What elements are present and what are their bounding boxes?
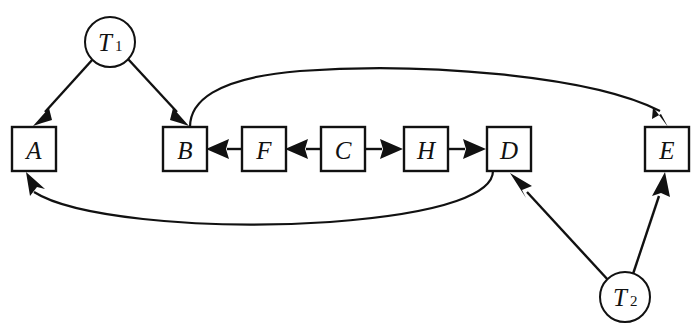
node-t2[interactable]: T 2 bbox=[600, 272, 650, 322]
edge-t2-to-d-line bbox=[527, 192, 609, 281]
node-t1[interactable]: T 1 bbox=[85, 17, 135, 67]
edge-b-to-e-curve bbox=[190, 68, 660, 127]
edge-h-to-d-arrowhead bbox=[463, 139, 486, 159]
edge-c-to-f bbox=[285, 139, 321, 159]
node-b-label: B bbox=[177, 137, 192, 164]
node-f[interactable]: F bbox=[242, 127, 286, 171]
node-a-label: A bbox=[24, 137, 42, 164]
node-e[interactable]: E bbox=[645, 127, 689, 171]
edge-f-to-b bbox=[206, 139, 242, 159]
node-d-label: D bbox=[499, 137, 518, 164]
node-a[interactable]: A bbox=[12, 127, 56, 171]
edge-b-to-e bbox=[190, 68, 668, 127]
edge-t2-to-e-line bbox=[633, 196, 659, 274]
node-t1-label: T bbox=[98, 29, 114, 56]
edge-t1-to-a-arrowhead bbox=[33, 108, 52, 126]
node-h[interactable]: H bbox=[404, 127, 448, 171]
edge-t1-to-b-line bbox=[128, 59, 177, 112]
edge-t1-to-a bbox=[33, 59, 93, 126]
node-h-label: H bbox=[416, 137, 437, 164]
edge-h-to-d bbox=[448, 139, 486, 159]
edge-t2-to-d bbox=[510, 173, 609, 281]
node-c[interactable]: C bbox=[321, 127, 365, 171]
edge-c-to-h-arrowhead bbox=[380, 139, 403, 159]
edge-c-to-h bbox=[365, 139, 403, 159]
node-f-label: F bbox=[255, 137, 272, 164]
node-b[interactable]: B bbox=[163, 127, 207, 171]
edge-d-to-a-curve bbox=[34, 171, 493, 225]
node-e-label: E bbox=[658, 137, 674, 164]
node-d[interactable]: D bbox=[487, 127, 531, 171]
node-t2-label: T bbox=[613, 284, 629, 311]
node-t1-subscript: 1 bbox=[115, 38, 123, 54]
edge-f-to-b-arrowhead bbox=[206, 139, 229, 159]
edge-t2-to-e-arrowhead bbox=[652, 172, 670, 197]
edge-t1-to-b-arrowhead bbox=[170, 108, 189, 126]
edge-d-to-a bbox=[26, 171, 493, 225]
graph-svg: A B F C H D E bbox=[0, 0, 699, 335]
edge-t2-to-e bbox=[633, 172, 670, 274]
edge-c-to-f-arrowhead bbox=[285, 139, 308, 159]
node-c-label: C bbox=[335, 137, 352, 164]
diagram-canvas: A B F C H D E bbox=[0, 0, 699, 335]
node-t2-subscript: 2 bbox=[630, 293, 638, 309]
edge-t1-to-a-line bbox=[45, 59, 93, 112]
edge-t1-to-b bbox=[128, 59, 189, 126]
